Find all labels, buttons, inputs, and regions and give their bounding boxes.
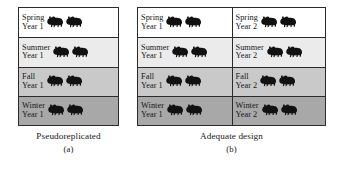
bison-icon bbox=[260, 75, 277, 88]
grid-cell[interactable]: SummerYear 2 bbox=[233, 37, 326, 66]
animal-group bbox=[50, 46, 118, 59]
cell-label-group: SpringYear 2 bbox=[233, 14, 258, 31]
bison-icon bbox=[47, 16, 64, 29]
cell-label-group: FallYear 1 bbox=[138, 73, 163, 90]
year-label: Year 1 bbox=[141, 111, 164, 120]
year-label: Year 1 bbox=[22, 82, 44, 91]
grid-cell[interactable]: SpringYear 2 bbox=[233, 8, 326, 37]
cell-label-group: SummerYear 1 bbox=[138, 44, 169, 61]
panel-b-caption-sub: (b) bbox=[137, 144, 326, 154]
animal-group bbox=[44, 75, 118, 88]
grid-cell[interactable]: SpringYear 1 bbox=[138, 8, 232, 37]
animal-group bbox=[44, 16, 118, 29]
year-1-column: SpringYear 1SummerYear 1FallYear 1Winter… bbox=[19, 8, 118, 125]
year-label: Year 2 bbox=[236, 23, 258, 32]
panel-b: SpringYear 1SummerYear 1FallYear 1Winter… bbox=[137, 7, 326, 126]
bison-icon bbox=[191, 46, 208, 59]
cell-label-group: SpringYear 1 bbox=[138, 14, 163, 31]
bison-icon bbox=[281, 104, 298, 117]
animal-group bbox=[258, 16, 325, 29]
panel-a-caption-sub: (a) bbox=[18, 144, 119, 154]
year-label: Year 2 bbox=[236, 52, 264, 61]
bison-icon bbox=[261, 16, 278, 29]
bison-icon bbox=[185, 16, 202, 29]
bison-icon bbox=[286, 46, 303, 59]
bison-icon bbox=[172, 46, 189, 59]
cell-label-group: WinterYear 1 bbox=[19, 102, 45, 119]
cell-label-group: WinterYear 1 bbox=[138, 102, 164, 119]
bison-icon bbox=[185, 75, 202, 88]
year-label: Year 1 bbox=[141, 23, 163, 32]
bison-icon bbox=[280, 16, 297, 29]
animal-group bbox=[264, 46, 325, 59]
animal-group bbox=[257, 75, 325, 88]
panel-a-caption-title: Pseudoreplicated bbox=[18, 131, 119, 141]
year-label: Year 2 bbox=[236, 111, 259, 120]
panel-b-grid: SpringYear 1SummerYear 1FallYear 1Winter… bbox=[137, 7, 326, 126]
grid-cell[interactable]: WinterYear 2 bbox=[233, 96, 326, 125]
cell-label-group: FallYear 2 bbox=[233, 73, 258, 90]
bison-icon bbox=[167, 104, 184, 117]
bison-icon bbox=[267, 46, 284, 59]
bison-icon bbox=[66, 16, 83, 29]
bison-icon bbox=[47, 75, 64, 88]
animal-group bbox=[163, 75, 232, 88]
year-label: Year 1 bbox=[22, 52, 50, 61]
panel-a-grid: SpringYear 1SummerYear 1FallYear 1Winter… bbox=[18, 7, 119, 126]
cell-label-group: SummerYear 2 bbox=[233, 44, 264, 61]
bison-icon bbox=[53, 46, 70, 59]
animal-group bbox=[169, 46, 231, 59]
grid-cell[interactable]: SpringYear 1 bbox=[19, 8, 118, 37]
year-2-column: SpringYear 2SummerYear 2FallYear 2Winter… bbox=[232, 8, 326, 125]
cell-label-group: WinterYear 2 bbox=[233, 102, 259, 119]
cell-label-group: SummerYear 1 bbox=[19, 44, 50, 61]
bison-icon bbox=[48, 104, 65, 117]
grid-cell[interactable]: FallYear 2 bbox=[233, 67, 326, 96]
bison-icon bbox=[166, 75, 183, 88]
panel-b-caption-title: Adequate design bbox=[137, 131, 326, 141]
animal-group bbox=[259, 104, 325, 117]
animal-group bbox=[45, 104, 118, 117]
grid-cell[interactable]: FallYear 1 bbox=[19, 67, 118, 96]
bison-icon bbox=[279, 75, 296, 88]
animal-group bbox=[163, 16, 231, 29]
bison-icon bbox=[67, 104, 84, 117]
cell-label-group: FallYear 1 bbox=[19, 73, 44, 90]
year-1-column: SpringYear 1SummerYear 1FallYear 1Winter… bbox=[138, 8, 232, 125]
bison-icon bbox=[262, 104, 279, 117]
year-label: Year 1 bbox=[141, 52, 169, 61]
year-label: Year 1 bbox=[141, 82, 163, 91]
figure-root: SpringYear 1SummerYear 1FallYear 1Winter… bbox=[0, 0, 340, 169]
bison-icon bbox=[66, 75, 83, 88]
panel-a: SpringYear 1SummerYear 1FallYear 1Winter… bbox=[18, 7, 119, 126]
year-label: Year 1 bbox=[22, 23, 44, 32]
grid-cell[interactable]: WinterYear 1 bbox=[19, 96, 118, 125]
year-label: Year 1 bbox=[22, 111, 45, 120]
bison-icon bbox=[186, 104, 203, 117]
cell-label-group: SpringYear 1 bbox=[19, 14, 44, 31]
panel-b-caption: Adequate design (b) bbox=[137, 131, 326, 154]
grid-cell[interactable]: SummerYear 1 bbox=[138, 37, 232, 66]
bison-icon bbox=[166, 16, 183, 29]
panel-a-caption: Pseudoreplicated (a) bbox=[18, 131, 119, 154]
grid-cell[interactable]: SummerYear 1 bbox=[19, 37, 118, 66]
bison-icon bbox=[72, 46, 89, 59]
animal-group bbox=[164, 104, 231, 117]
grid-cell[interactable]: WinterYear 1 bbox=[138, 96, 232, 125]
grid-cell[interactable]: FallYear 1 bbox=[138, 67, 232, 96]
year-label: Year 2 bbox=[236, 82, 258, 91]
